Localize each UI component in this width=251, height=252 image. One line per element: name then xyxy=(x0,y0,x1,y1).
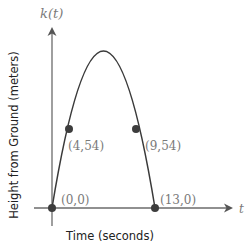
label-point-4-54: (4,54) xyxy=(68,139,104,153)
label-point-0-0: (0,0) xyxy=(61,193,89,207)
x-axis-title: Time (seconds) xyxy=(50,229,170,243)
point-4-54 xyxy=(65,125,73,133)
point-0-0 xyxy=(48,204,56,212)
label-point-13-0: (13,0) xyxy=(160,193,196,207)
x-variable-label: t xyxy=(239,202,244,216)
chart-canvas: (0,0) (4,54) (9,54) (13,0) k(t) t xyxy=(0,0,251,252)
point-13-0 xyxy=(151,204,159,212)
function-label: k(t) xyxy=(40,6,63,21)
label-point-9-54: (9,54) xyxy=(145,139,181,153)
point-9-54 xyxy=(132,125,140,133)
y-axis-title-text: Height from Ground (meters) xyxy=(7,51,21,219)
y-axis-title: Height from Ground (meters) xyxy=(4,40,24,230)
